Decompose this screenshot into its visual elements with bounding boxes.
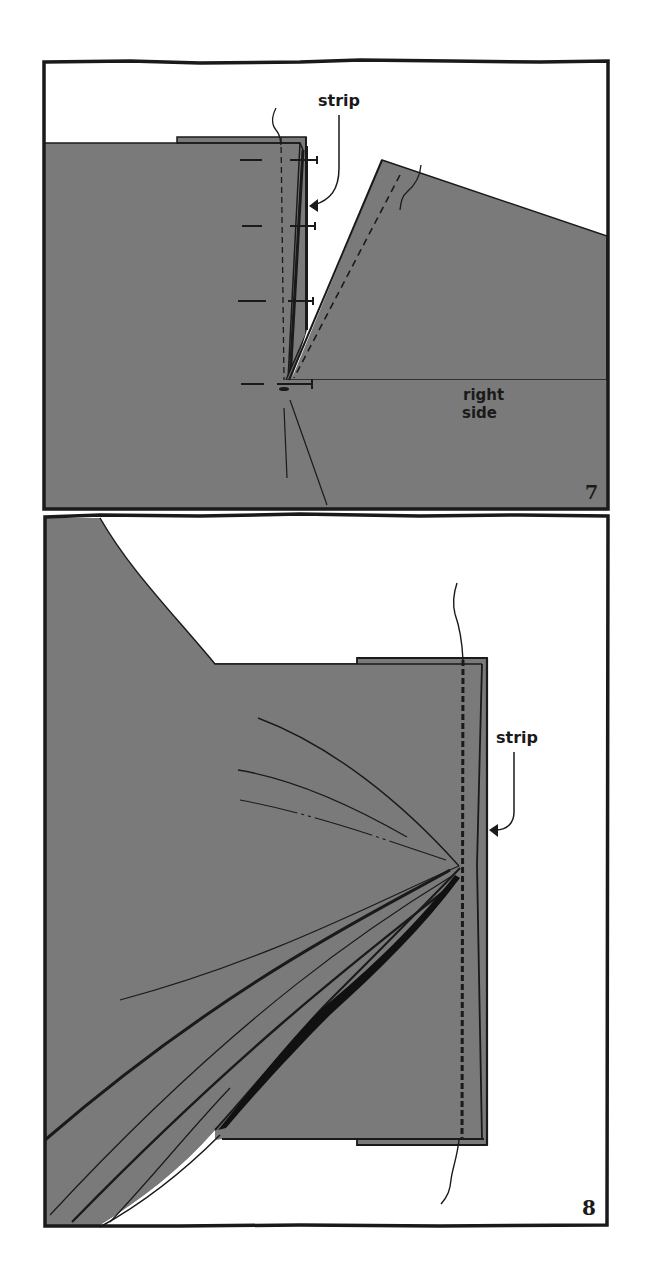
strip-label: strip [318,91,360,110]
left-fabric-piece [45,143,305,380]
panel-7: strip right side 7 [44,60,608,509]
panel-number: 8 [582,1196,596,1220]
right-side-label-line1: right [463,386,504,404]
strip-label: strip [496,728,538,747]
right-side-label-line2: side [462,404,497,422]
panel-8: strip 8 [45,514,608,1227]
panel-number: 7 [585,481,598,503]
sewing-illustration: strip right side 7 [0,0,651,1266]
